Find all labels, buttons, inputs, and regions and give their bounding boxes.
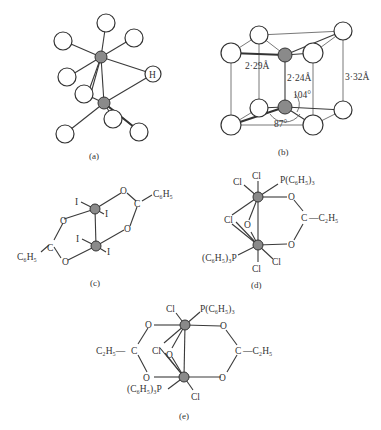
ligand-atom [130,123,148,141]
metal-atom-lower [253,240,263,250]
ethyl-label: C₂H₅— [96,346,126,356]
oxygen-label: O [166,350,173,360]
metal-atom-upper [95,51,107,63]
caption-e: (e) [179,411,189,421]
cube-atom [221,43,241,63]
metal-atom-upper [180,320,190,330]
cube-atom [250,99,268,117]
iodine-label: I [107,247,110,257]
chloride-label: Cl [166,304,175,314]
distance-label-2: 2·24Å [287,72,311,83]
cube-atom [334,22,352,40]
ethyl-label: —C₂H₅ [308,213,338,223]
ligand-atom [58,68,76,86]
cube-atom [250,26,268,44]
ligand-atom [125,29,143,47]
carbon-label: C [134,199,140,209]
caption-a: (a) [89,151,99,161]
ligand-atom [75,85,93,103]
panel-e: Cl Cl Cl O O O O O C C C₂H₅— —C₂H₅ P(C₆H… [96,304,272,421]
oxygen-label: O [143,373,150,383]
triphenylphosphine-label: (C₆H₅)₃P [202,253,237,264]
carbon-label: C [47,243,53,253]
metal-atom-upper [278,48,292,62]
metal-atom-lower [278,100,292,114]
panel-b: 2·29Å 2·24Å 3·32Å 104° 87° (b) [221,22,369,157]
figure-canvas: H (a) [0,0,381,430]
cube-atom [334,101,352,119]
iodine-label: I [76,234,79,244]
oxygen-label: O [288,240,295,250]
cube-atom [303,43,323,63]
ligand-atom [54,32,72,50]
triphenylphosphine-label: P(C₆H₅)₃ [200,304,235,315]
metal-atom-lower [91,241,101,251]
oxygen-label: O [124,224,131,234]
cube-atom [303,115,323,135]
distance-label-3: 3·32Å [345,71,369,82]
cube-atom [221,115,241,135]
panel-c: I I I I O O O O C C C₆H₅ C₆H₅ (c) [17,186,173,288]
ligand-atom [104,110,122,128]
oxygen-label: O [244,220,251,230]
carbon-label: C [235,346,241,356]
metal-atom-lower [98,97,110,109]
ligand-atom [56,125,74,143]
angle-label-1: 104° [293,90,311,100]
chloride-label: Cl [252,264,261,274]
chloride-label: Cl [152,346,161,356]
oxygen-label: O [60,216,67,226]
ligand-atom [97,14,115,32]
triphenylphosphine-label: P(C₆H₅)₃ [280,175,315,186]
panel-a: H (a) [54,14,161,161]
oxygen-label: O [145,320,152,330]
angle-label-2: 87° [274,119,288,129]
chloride-label: Cl [233,177,242,187]
carbon-label: C [131,346,137,356]
oxygen-label: O [220,321,227,331]
iodine-label: I [105,209,108,219]
metal-atom-upper [90,204,100,214]
hydride-label: H [149,70,156,80]
carbon-label: C [301,213,307,223]
metal-atom-lower [179,372,189,382]
iodine-label: I [75,197,78,207]
oxygen-label: O [288,192,295,202]
phenyl-label: C₆H₅ [153,189,173,199]
oxygen-label: O [120,186,127,196]
caption-c: (c) [90,278,100,288]
phenyl-label: C₆H₅ [17,252,37,262]
oxygen-label: O [62,257,69,267]
ethyl-label: —C₂H₅ [242,346,272,356]
triphenylphosphine-label: (C₆H₅)₃P [127,384,162,395]
panel-d: Cl Cl Cl Cl Cl O O O C —C₂H₅ P(C₆H₅)₃ (C… [202,171,338,290]
caption-d: (d) [251,280,262,290]
distance-label-1: 2·29Å [245,60,269,71]
chloride-label: Cl [224,215,233,225]
caption-b: (b) [278,147,289,157]
chloride-label: Cl [191,392,200,402]
chloride-label: Cl [252,171,261,181]
oxygen-label: O [219,373,226,383]
chloride-label: Cl [272,257,281,267]
metal-atom-upper [253,192,263,202]
